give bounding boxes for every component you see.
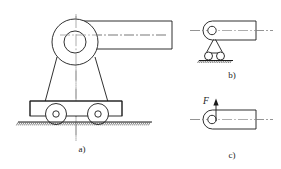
- caption-a: a): [79, 144, 86, 154]
- hatch-tick: [128, 122, 130, 125]
- hatch-tick: [146, 122, 148, 125]
- hatch-tick: [104, 122, 106, 125]
- hatch-tick: [198, 60, 199, 63]
- hatch-tick: [142, 122, 144, 125]
- yoke-right-leg: [95, 57, 108, 102]
- hatch-tick: [42, 122, 44, 125]
- hatch-tick: [46, 122, 48, 125]
- hatch-tick: [126, 122, 128, 125]
- hatch-tick: [18, 122, 20, 125]
- hatch-tick: [122, 122, 124, 125]
- hatch-tick: [84, 122, 86, 125]
- hatch-tick: [24, 122, 26, 125]
- subfigure-b: b): [190, 21, 273, 80]
- hatch-tick: [90, 122, 92, 125]
- technical-drawing-figure: a) b): [0, 0, 281, 169]
- yoke-left-leg: [45, 57, 57, 102]
- hatch-tick: [16, 122, 18, 125]
- hatch-tick: [124, 122, 126, 125]
- hatch-tick: [136, 122, 138, 125]
- force-arrow-head: [213, 99, 218, 106]
- wheel-right: [88, 104, 109, 125]
- force-label-f: F: [202, 96, 209, 106]
- hatch-tick: [138, 122, 140, 125]
- hatch-tick: [116, 122, 118, 125]
- caption-b: b): [228, 70, 236, 80]
- hatch-tick: [106, 122, 108, 125]
- hatch-tick: [64, 122, 66, 125]
- hatch-tick: [20, 122, 22, 125]
- wheel-left: [46, 104, 67, 125]
- hatch-tick: [80, 122, 82, 125]
- hatch-tick: [82, 122, 84, 125]
- hatch-tick: [44, 122, 46, 125]
- hatch-tick: [34, 122, 36, 125]
- hatch-tick: [112, 122, 114, 125]
- hatch-tick: [120, 122, 122, 125]
- roller-left-b: [205, 52, 213, 60]
- hatch-tick: [48, 122, 50, 125]
- hatch-tick: [118, 122, 120, 125]
- hatch-tick: [68, 122, 70, 125]
- hatch-tick: [86, 122, 88, 125]
- hatch-tick: [26, 122, 28, 125]
- hatch-tick: [76, 122, 78, 125]
- hatch-tick: [30, 122, 32, 125]
- subfigure-a: a): [16, 14, 172, 154]
- pin-hole-b: [208, 26, 216, 34]
- hatch-tick: [88, 122, 90, 125]
- roller-right-b: [217, 52, 225, 60]
- support-bracket-b: [206, 40, 223, 54]
- hatch-tick: [66, 122, 68, 125]
- hub-outer-circle: [52, 19, 98, 65]
- hatch-tick: [62, 122, 64, 125]
- hatch-tick: [38, 122, 40, 125]
- ground-hatching-a: [16, 122, 150, 125]
- hatch-tick: [144, 122, 146, 125]
- hatch-tick: [140, 122, 142, 125]
- hatch-tick: [22, 122, 24, 125]
- hatch-tick: [28, 122, 30, 125]
- hatch-tick: [132, 122, 134, 125]
- hatch-tick: [72, 122, 74, 125]
- hatch-tick: [114, 122, 116, 125]
- pin-hole-c: [208, 115, 216, 123]
- hatch-tick: [110, 122, 112, 125]
- hatch-tick: [36, 122, 38, 125]
- hatch-tick: [130, 122, 132, 125]
- hatch-tick: [32, 122, 34, 125]
- subfigure-c: F c): [190, 96, 273, 160]
- hatch-tick: [78, 122, 80, 125]
- hatch-tick: [108, 122, 110, 125]
- hatch-tick: [40, 122, 42, 125]
- hatch-tick: [134, 122, 136, 125]
- hatch-tick: [70, 122, 72, 125]
- caption-c: c): [229, 150, 236, 160]
- hatch-tick: [148, 122, 150, 125]
- figure-canvas: a) b): [0, 0, 281, 169]
